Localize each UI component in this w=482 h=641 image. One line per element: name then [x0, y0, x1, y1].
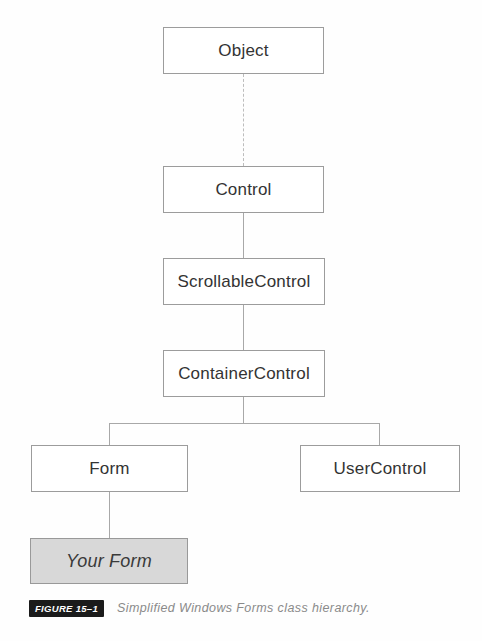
node-containercontrol: ContainerControl: [163, 350, 325, 397]
figure-tag: FIGURE 15–1: [29, 600, 104, 617]
node-control-label: Control: [215, 180, 271, 200]
figure-tag-label: FIGURE 15–1: [35, 603, 98, 614]
edge-containercontrol-branch-stem: [243, 397, 244, 423]
edge-scrollablecontrol-containercontrol: [243, 305, 244, 350]
node-object: Object: [163, 27, 324, 74]
node-form: Form: [31, 445, 188, 492]
node-yourform: Your Form: [30, 538, 188, 584]
node-scrollablecontrol: ScrollableControl: [163, 258, 325, 305]
edge-object-control-dotted: [243, 74, 244, 166]
node-scrollablecontrol-label: ScrollableControl: [178, 272, 311, 292]
node-containercontrol-label: ContainerControl: [178, 364, 310, 384]
edge-branch-horizontal: [109, 423, 379, 424]
figure-caption: Simplified Windows Forms class hierarchy…: [117, 600, 370, 617]
node-yourform-label: Your Form: [66, 551, 152, 572]
edge-branch-usercontrol: [379, 423, 380, 445]
figure-page: Object Control ScrollableControl Contain…: [0, 0, 482, 641]
node-usercontrol: UserControl: [300, 445, 460, 492]
edge-branch-form: [109, 423, 110, 445]
edge-control-scrollablecontrol: [243, 213, 244, 258]
node-form-label: Form: [89, 459, 129, 479]
node-object-label: Object: [218, 41, 268, 61]
node-usercontrol-label: UserControl: [334, 459, 427, 479]
node-control: Control: [163, 166, 324, 213]
edge-form-yourform: [109, 492, 110, 538]
